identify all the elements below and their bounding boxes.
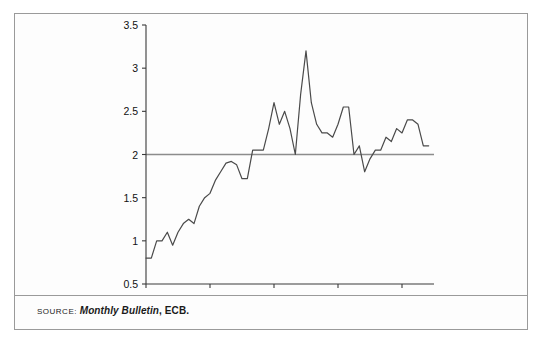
y-tick-label: 2.5 [123, 105, 138, 117]
chart-plot-area: 0.511.522.533.5Jan. 99Jan. 00Jan. 01Jan.… [15, 14, 529, 296]
y-tick-label: 0.5 [123, 278, 138, 290]
source-publisher: , ECB. [159, 305, 189, 316]
y-tick-label: 3 [132, 62, 138, 74]
line-chart: 0.511.522.533.5Jan. 99Jan. 00Jan. 01Jan.… [15, 14, 529, 296]
source-label: SOURCE: [37, 307, 77, 316]
y-tick-label: 1.5 [123, 192, 138, 204]
y-tick-label: 1 [132, 235, 138, 247]
source-bar: SOURCE: Monthly Bulletin, ECB. [15, 295, 527, 329]
y-tick-label: 3.5 [123, 19, 138, 31]
source-publication: Monthly Bulletin [80, 305, 159, 316]
y-tick-label: 2 [132, 149, 138, 161]
figure-panel: 0.511.522.533.5Jan. 99Jan. 00Jan. 01Jan.… [14, 13, 528, 330]
source-note: SOURCE: Monthly Bulletin, ECB. [37, 305, 189, 316]
